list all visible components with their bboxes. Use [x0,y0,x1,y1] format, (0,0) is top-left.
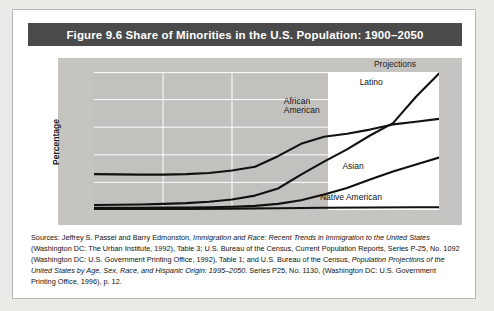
vertical-gridlines [163,72,232,210]
sources-prefix: Sources: Jeffrey S. Passel and Barry Edm… [31,233,193,242]
series-label-asian: Asian [342,162,363,172]
series-line-latino [94,73,439,205]
page-title: Figure 9.6 Share of Minorities in the U.… [66,29,423,41]
y-axis-title: Percentage [51,119,61,165]
chart-lines [94,72,439,210]
series-label-african-american: AfricanAmerican [284,97,320,116]
series-label-latino: Latino [360,78,383,88]
chart-frame: Projections Percentage [58,58,462,225]
figure-title-bar: Figure 9.6 Share of Minorities in the U.… [28,23,462,46]
series-label-native-american: Native American [320,193,382,203]
chart-area: Projections Percentage [58,58,462,225]
sources-note: Sources: Jeffrey S. Passel and Barry Edm… [31,232,461,287]
sources-title-1: Immigration and Race: Recent Trends in I… [193,233,430,242]
projections-annotation: Projections [374,59,416,69]
gridlines [94,73,439,183]
plot-area: AfricanAmerican Latino Asian Native Amer… [94,72,439,210]
figure-container: Figure 9.6 Share of Minorities in the U.… [12,9,476,299]
